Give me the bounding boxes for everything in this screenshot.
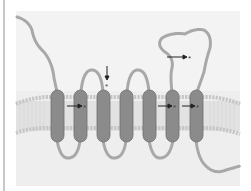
svg-text:*: * [173,103,176,112]
svg-text:*: * [188,54,191,63]
helix-tm1 [51,90,64,142]
svg-text:*: * [105,82,108,91]
helix-tm3 [97,90,110,142]
svg-text:*: * [196,103,199,112]
helix-tm6 [166,90,179,142]
helix-tm5 [143,90,156,142]
helix-tm4 [120,90,133,142]
svg-text:*: * [83,103,86,112]
helix-tm7 [190,90,203,142]
transmembrane-protein-diagram: * * * * * [0,0,251,191]
helix-tm2 [74,90,87,142]
